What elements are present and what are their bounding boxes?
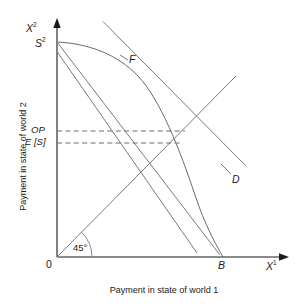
s2-point-label: S2 bbox=[35, 37, 46, 48]
tangent-line-at-F bbox=[103, 22, 246, 167]
d-label-leader-line bbox=[221, 164, 231, 174]
y-axis-arrow-icon bbox=[53, 18, 60, 28]
figure-root: X2 S2 F OP E [S] D B X1 0 45° Payment in… bbox=[0, 0, 299, 306]
f-label-leader-line bbox=[120, 55, 128, 60]
x-axis-symbol-label: X1 bbox=[266, 260, 277, 271]
frontier-point-label: F bbox=[129, 54, 135, 65]
chord-S2-to-B bbox=[57, 42, 220, 255]
demand-curve-label: D bbox=[232, 174, 240, 185]
y-axis-symbol-label: X2 bbox=[26, 22, 37, 33]
y-axis-title: Payment in state of world 2 bbox=[19, 82, 28, 232]
angle-label: 45° bbox=[73, 243, 87, 253]
origin-label: 0 bbox=[46, 259, 52, 270]
x-axis-arrow-icon bbox=[279, 253, 289, 260]
expected-value-label: E [S] bbox=[25, 137, 46, 147]
y-axis bbox=[53, 18, 60, 257]
fair-odds-line bbox=[57, 52, 197, 254]
op-level-label: OP bbox=[31, 125, 45, 135]
x-axis-title: Payment in state of world 1 bbox=[74, 286, 254, 295]
budget-point-label: B bbox=[218, 260, 225, 271]
